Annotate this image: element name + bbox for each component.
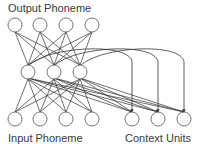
input-node xyxy=(59,112,73,126)
network-diagram xyxy=(0,0,200,150)
edge-hidden-output xyxy=(66,32,80,65)
edge-hidden-output xyxy=(15,32,80,65)
hidden-node xyxy=(47,65,61,79)
recurrent-copy-arc xyxy=(54,49,158,112)
connections xyxy=(15,32,184,112)
edge-hidden-context xyxy=(28,78,132,112)
input-node xyxy=(85,112,99,126)
output-node xyxy=(33,18,47,32)
hidden-node xyxy=(73,65,87,79)
edge-hidden-output xyxy=(15,32,28,65)
output-node xyxy=(85,18,99,32)
context-node xyxy=(177,112,191,126)
input-node xyxy=(33,112,47,126)
edge-hidden-context xyxy=(80,78,132,112)
input-layer-label: Input Phoneme xyxy=(8,133,83,144)
hidden-node xyxy=(21,65,35,79)
output-layer-label: Output Phoneme xyxy=(8,3,91,14)
input-node xyxy=(8,112,22,126)
recurrent-copy-arc xyxy=(28,49,132,112)
output-node xyxy=(59,18,73,32)
output-node xyxy=(8,18,22,32)
context-node xyxy=(151,112,165,126)
nodes xyxy=(8,18,191,126)
context-units-label: Context Units xyxy=(125,133,191,144)
context-node xyxy=(125,112,139,126)
edge-input-hidden xyxy=(15,79,28,112)
